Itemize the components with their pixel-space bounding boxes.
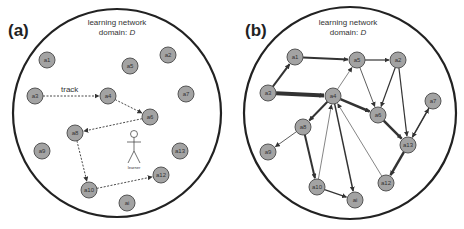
node-label: a1 (292, 54, 299, 60)
domain-circle-b (244, 7, 456, 219)
node-a13: a13 (172, 143, 188, 159)
edge-a8-a10 (305, 135, 315, 178)
edge-a4-ai (335, 104, 353, 191)
edge-a6-a13 (384, 121, 402, 139)
edge-a4-a6 (340, 99, 369, 111)
node-a12: a12 (378, 175, 394, 191)
node-a7: a7 (425, 93, 441, 109)
node-label: a1 (44, 57, 51, 63)
panel-label-a: (a) (8, 21, 29, 40)
edge-a6-a8 (84, 119, 142, 131)
node-label: a13 (403, 142, 414, 148)
node-label: a13 (175, 148, 186, 154)
node-label: a6 (375, 112, 382, 118)
node-a10: a10 (81, 182, 97, 198)
edge-a13-a12 (391, 152, 404, 175)
node-label: a12 (156, 172, 167, 178)
node-label: a8 (300, 124, 307, 130)
domain-title-a: learning network (88, 18, 148, 27)
edge-a13-a7 (412, 109, 429, 138)
node-label: a2 (165, 52, 172, 58)
node-label: a2 (395, 57, 402, 63)
node-a4: a4 (100, 88, 116, 104)
node-label: a12 (381, 180, 392, 186)
node-a2: a2 (160, 47, 176, 63)
node-a5: a5 (349, 52, 365, 68)
node-label: a9 (39, 148, 46, 154)
learner-icon (127, 131, 141, 164)
edge-a8-a9 (275, 132, 296, 147)
edge-a10-a12 (97, 177, 152, 189)
node-label: a3 (265, 90, 272, 96)
panel-b: (b) learning network domain: D a1a5a2a3a… (244, 7, 456, 219)
node-a5: a5 (122, 58, 138, 74)
node-a10: a10 (309, 179, 325, 195)
node-a3: a3 (260, 85, 276, 101)
edge-a2-a6 (381, 68, 395, 107)
node-a6: a6 (142, 109, 158, 125)
domain-subtitle-a: domain: D (99, 28, 136, 37)
node-label: a4 (330, 93, 337, 99)
domain-circle-a (13, 9, 221, 217)
edge-a4-a8 (309, 102, 327, 121)
edge-a4-a6 (115, 100, 142, 113)
node-a2: a2 (390, 52, 406, 68)
nodes-a: a1a5a2a3a4a7a6a8a9a13a12a10ai (27, 47, 194, 211)
node-a8: a8 (67, 125, 83, 141)
node-a12: a12 (153, 167, 169, 183)
edge-a8-a10 (77, 141, 87, 181)
node-a9: a9 (260, 144, 276, 160)
node-a6: a6 (370, 107, 386, 123)
node-label: a10 (84, 187, 95, 193)
track-label: track (61, 85, 79, 94)
node-a13: a13 (400, 137, 416, 153)
node-a1: a1 (287, 49, 303, 65)
node-label: a3 (32, 93, 39, 99)
node-label: a8 (72, 130, 79, 136)
edge-a10-a4 (318, 105, 331, 179)
node-label: a10 (312, 184, 323, 190)
learning-network-diagram: (a) learning network domain: D track lea… (0, 0, 464, 229)
node-label: ai (353, 197, 358, 203)
node-label: a4 (105, 93, 112, 99)
node-a1: a1 (39, 52, 55, 68)
node-ai: ai (119, 195, 135, 211)
panel-label-b: (b) (245, 21, 267, 40)
panel-a: (a) learning network domain: D track lea… (8, 9, 221, 217)
edge-a2-a13 (399, 68, 407, 136)
node-a7: a7 (178, 86, 194, 102)
domain-title-b: learning network (319, 18, 379, 27)
node-label: a5 (127, 63, 134, 69)
edge-a5-a6 (360, 67, 375, 106)
node-ai: ai (347, 192, 363, 208)
edge-a10-ai (325, 190, 347, 197)
learner-label: learner (128, 165, 141, 170)
node-label: a6 (147, 114, 154, 120)
node-a8: a8 (295, 119, 311, 135)
node-label: a5 (354, 57, 361, 63)
edge-a4-a5 (337, 67, 352, 89)
node-label: a7 (183, 91, 190, 97)
edge-a1-a5 (303, 57, 348, 59)
edge-a3-a1 (273, 64, 290, 86)
domain-subtitle-b: domain: D (330, 28, 367, 37)
node-label: a7 (430, 98, 437, 104)
node-a4: a4 (325, 88, 341, 104)
node-a9: a9 (34, 143, 50, 159)
node-a3: a3 (27, 88, 43, 104)
nodes-b: a1a5a2a3a4a7a6a8a13a9a12a10ai (260, 49, 441, 208)
node-label: a9 (265, 149, 272, 155)
node-label: ai (125, 200, 130, 206)
edge-a3-a4 (276, 93, 324, 95)
